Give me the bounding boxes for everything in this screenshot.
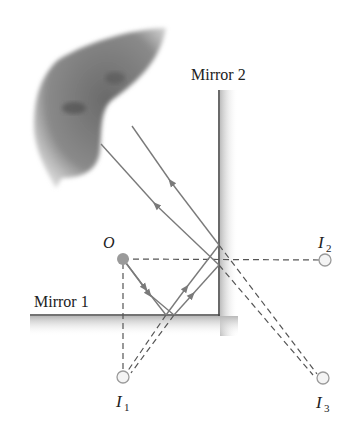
mirror-2-backing <box>220 90 238 336</box>
svg-text:I: I <box>317 233 325 252</box>
svg-text:2: 2 <box>326 242 332 254</box>
image-3-label: I 3 <box>315 393 330 414</box>
image-1-label: I 1 <box>115 392 130 413</box>
image-3-point <box>317 372 329 384</box>
svg-text:1: 1 <box>124 401 130 413</box>
mirror-1-label: Mirror 1 <box>34 293 89 310</box>
two-mirror-diagram: O Mirror 2 Mirror 1 I 1 I 2 I 3 <box>0 0 354 424</box>
svg-text:I: I <box>315 393 323 412</box>
svg-text:3: 3 <box>324 402 330 414</box>
image-2-label: I 2 <box>317 233 332 254</box>
mirror-1-backing <box>30 316 238 336</box>
image-1-point <box>117 371 129 383</box>
object-label: O <box>103 234 115 251</box>
image-2-point <box>319 254 331 266</box>
svg-text:I: I <box>115 392 123 411</box>
object-point <box>117 253 129 265</box>
mirror-2-label: Mirror 2 <box>191 66 246 83</box>
light-rays <box>101 126 219 315</box>
observer-face <box>34 28 166 188</box>
